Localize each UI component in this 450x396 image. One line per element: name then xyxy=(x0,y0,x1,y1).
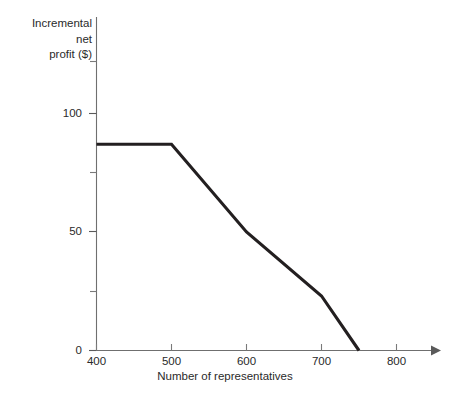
x-tick-label-800: 800 xyxy=(377,355,417,367)
data-series-line xyxy=(97,144,360,350)
x-axis-title: Number of representatives xyxy=(0,370,450,382)
chart-container: Incrementalnetprofit ($) Number of repre… xyxy=(0,0,450,396)
y-axis-title-line-2: net xyxy=(76,33,92,45)
y-axis-title: Incrementalnetprofit ($) xyxy=(6,16,92,63)
x-tick-label-400: 400 xyxy=(77,355,117,367)
y-axis-title-line-1: Incremental xyxy=(32,17,92,29)
y-tick-label-50: 50 xyxy=(42,225,82,237)
x-axis-arrow-icon xyxy=(431,346,441,356)
x-tick-label-700: 700 xyxy=(302,355,342,367)
y-tick-label-100: 100 xyxy=(42,107,82,119)
x-tick-label-500: 500 xyxy=(152,355,192,367)
y-axis-title-line-3: profit ($) xyxy=(49,48,92,60)
x-tick-label-600: 600 xyxy=(227,355,267,367)
